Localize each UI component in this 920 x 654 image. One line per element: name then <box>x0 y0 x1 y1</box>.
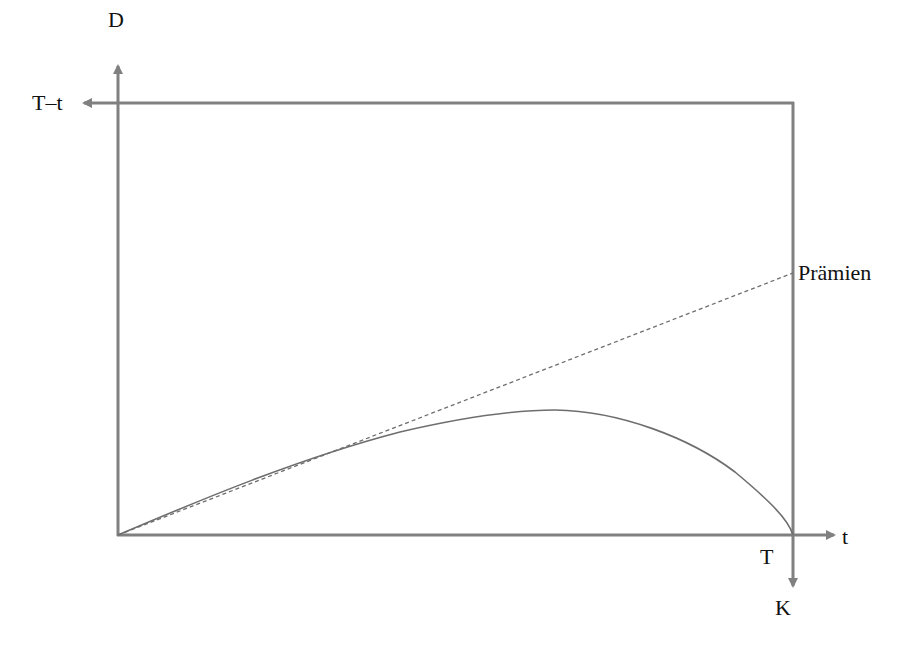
y-axis-label-d: D <box>108 9 124 31</box>
reserve-diagram <box>0 0 920 654</box>
right-axis-label-k: K <box>775 597 791 619</box>
x-axis-label-t: t <box>842 526 848 548</box>
reserve-curve <box>118 410 793 535</box>
praemien-label: Prämien <box>798 262 871 284</box>
top-axis-label-t-minus-t: T–t <box>32 92 63 114</box>
end-time-label-t: T <box>760 546 773 568</box>
praemien-dashed-line <box>118 273 793 535</box>
